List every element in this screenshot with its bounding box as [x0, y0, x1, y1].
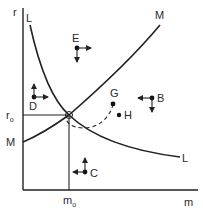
point-D-label: D	[29, 100, 37, 112]
point-C: C	[73, 158, 98, 179]
curve-M	[23, 25, 160, 142]
point-E: E	[72, 32, 91, 62]
point-C-label: C	[90, 167, 98, 179]
point-B: B	[138, 92, 164, 112]
point-H-dot	[117, 113, 121, 117]
point-E-label: E	[72, 32, 79, 44]
point-G: G	[110, 87, 119, 106]
curve-L-label-top: L	[26, 12, 32, 24]
point-B-label: B	[157, 92, 164, 104]
point-G-label: G	[110, 87, 119, 99]
r0-label: ro	[6, 109, 14, 123]
point-H-label: H	[124, 109, 132, 121]
point-H: H	[117, 109, 132, 121]
x-axis-label: m	[184, 196, 193, 208]
point-D: D	[29, 84, 48, 112]
m0-label: mo	[63, 194, 76, 208]
curve-L-label-end: L	[182, 152, 188, 164]
curve-M-label-top: M	[155, 9, 164, 21]
curve-L	[30, 25, 180, 157]
diagram-canvas: r m L L M M ro mo E D B C	[0, 0, 203, 220]
y-axis-label: r	[13, 6, 17, 18]
point-G-dot	[111, 102, 116, 107]
curve-M-label-start: M	[6, 136, 15, 148]
adjustment-path	[66, 104, 113, 128]
